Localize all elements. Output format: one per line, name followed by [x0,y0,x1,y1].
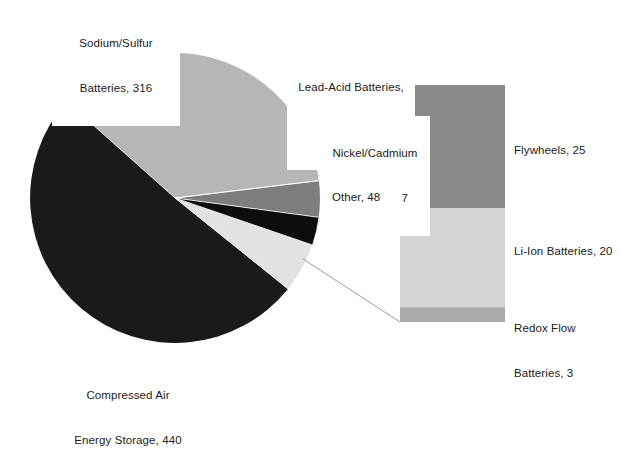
pie-label-other: Other, 48 [332,190,402,205]
pie-label-nickel-cadmium-line1: Nickel/Cadmium [320,146,430,161]
pie-label-compressed-air-line2: Energy Storage, 440 [38,433,218,448]
bar-label-redox-flow-line1: Redox Flow [514,321,626,336]
bar-label-liion: Li-Ion Batteries, 20 [514,244,630,259]
bar-label-redox-flow-line2: Batteries, 3 [514,366,626,381]
bar-segment-redox-flow[interactable] [400,307,505,322]
pie-label-sodium-sulfur: Sodium/Sulfur Batteries, 316 [52,6,180,126]
pie-label-nickel-cadmium: Nickel/Cadmium Batteries, 27 [320,116,430,236]
pie-label-compressed-air-line1: Compressed Air [38,388,218,403]
pie-label-sodium-sulfur-line1: Sodium/Sulfur [52,36,180,51]
pie-label-compressed-air: Compressed Air Energy Storage, 440 [38,358,218,450]
bar-label-flywheels: Flywheels, 25 [514,143,626,158]
pie-label-sodium-sulfur-line2: Batteries, 316 [52,81,180,96]
pie-label-lead-acid-line1: Lead-Acid Batteries, [287,80,415,95]
bar-label-redox-flow: Redox Flow Batteries, 3 [514,291,626,411]
